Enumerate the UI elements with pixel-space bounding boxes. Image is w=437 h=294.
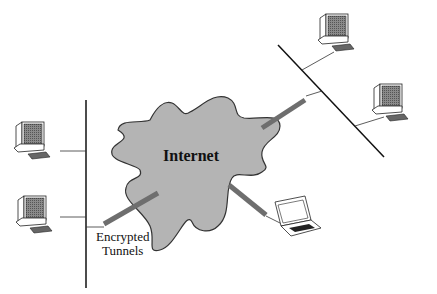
laptop-icon [275, 196, 321, 236]
computer-icon [16, 196, 52, 233]
tunnel-right [262, 100, 305, 128]
computer-icon [14, 122, 50, 159]
internet-label: Internet [163, 147, 219, 165]
tunnel-laptop [229, 185, 266, 215]
encrypted-tunnels-label: Encrypted Tunnels [96, 230, 149, 258]
computer-icon [372, 84, 408, 121]
right-lan-backbone [278, 45, 384, 157]
computer-icon [318, 14, 354, 51]
internet-cloud [112, 97, 280, 251]
